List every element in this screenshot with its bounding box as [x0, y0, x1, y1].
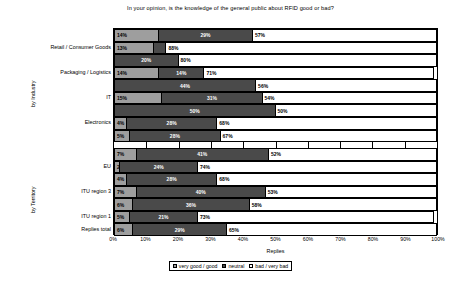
stacked-bar[interactable]: 14%14%71%	[114, 67, 437, 80]
bar-segment-bad[interactable]: 74%	[198, 161, 437, 174]
bar-value-label: 56%	[258, 83, 268, 89]
bar-segment-good[interactable]: 5%	[114, 211, 130, 224]
bar-value-label: 52%	[271, 151, 281, 157]
stacked-bar[interactable]: 6%36%58%	[114, 198, 437, 211]
bar-value-label: 57%	[255, 32, 265, 38]
stacked-bar[interactable]: 5%21%73%	[114, 211, 437, 224]
bar-segment-good[interactable]: 15%	[114, 92, 162, 105]
bar-segment-good[interactable]: 4%	[114, 173, 127, 186]
bar-row: 7%41%52%	[114, 148, 437, 161]
bar-value-label: 4%	[117, 176, 124, 182]
bar-segment-neutral[interactable]: 28%	[127, 173, 217, 186]
bar-segment-neutral[interactable]: 36%	[133, 198, 249, 211]
bar-value-label: 71%	[206, 70, 216, 76]
x-axis-tick: 100%	[431, 236, 444, 242]
category-label: Packaging / Logistics	[60, 69, 111, 75]
bar-segment-bad[interactable]: 65%	[227, 223, 437, 236]
bar-segment-bad[interactable]: 56%	[256, 79, 437, 92]
bar-value-label: 74%	[200, 164, 210, 170]
stacked-bar[interactable]: 5%28%67%	[114, 130, 437, 143]
bar-segment-neutral[interactable]: 44%	[114, 79, 256, 92]
stacked-bar[interactable]: 4%28%68%	[114, 173, 437, 186]
bar-segment-good[interactable]: 14%	[114, 67, 159, 80]
bar-value-label: 24%	[154, 164, 164, 170]
bar-row: 4%28%68%	[114, 173, 437, 186]
bar-segment-bad[interactable]: 67%	[221, 130, 437, 143]
bar-segment-bad[interactable]: 57%	[253, 29, 437, 42]
bar-row: 15%31%54%	[114, 92, 437, 105]
bar-segment-bad[interactable]: 88%	[166, 42, 437, 55]
stacked-bar[interactable]: 20%80%	[114, 54, 437, 67]
bar-segment-neutral[interactable]: 41%	[137, 148, 269, 161]
bar-segment-neutral[interactable]: 31%	[162, 92, 262, 105]
stacked-bar[interactable]: 13%88%	[114, 42, 437, 55]
legend-swatch-bad	[249, 264, 253, 268]
bar-segment-good[interactable]: 7%	[114, 148, 137, 161]
bar-segment-bad[interactable]: 73%	[198, 211, 434, 224]
bar-segment-bad[interactable]: 58%	[250, 198, 437, 211]
bar-segment-bad[interactable]: 68%	[217, 117, 437, 130]
bar-row: 14%14%71%	[114, 67, 437, 80]
stacked-bar[interactable]: 50%50%	[114, 104, 437, 117]
bar-segment-good[interactable]: 5%	[114, 130, 130, 143]
stacked-bar[interactable]: 7%41%52%	[114, 148, 437, 161]
bar-segment-neutral[interactable]: 29%	[159, 29, 253, 42]
legend-swatch-good	[173, 264, 177, 268]
bar-row: 50%50%	[114, 104, 437, 117]
bar-segment-bad[interactable]: 80%	[179, 54, 437, 67]
bar-value-label: 29%	[175, 227, 185, 233]
bar-segment-bad[interactable]: 53%	[266, 186, 437, 199]
x-axis-tick: 20%	[173, 236, 183, 242]
legend-item[interactable]: neutral	[222, 263, 244, 269]
bar-row: 14%29%57%	[114, 29, 437, 42]
legend-item[interactable]: very good / good	[173, 263, 218, 269]
bar-row: 4%28%68%	[114, 117, 437, 130]
bar-segment-bad[interactable]: 68%	[217, 173, 437, 186]
bar-segment-neutral[interactable]: 14%	[159, 67, 204, 80]
legend-label: neutral	[228, 263, 244, 269]
bar-segment-good[interactable]: 7%	[114, 186, 137, 199]
bar-segment-neutral[interactable]: 21%	[130, 211, 198, 224]
bar-segment-good[interactable]: 4%	[114, 117, 127, 130]
category-label: ITU region 3	[81, 188, 111, 194]
stacked-bar[interactable]: 2%24%74%	[114, 161, 437, 174]
bar-segment-neutral[interactable]: 40%	[137, 186, 266, 199]
stacked-bar[interactable]: 7%40%53%	[114, 186, 437, 199]
legend-swatch-neutral	[222, 264, 226, 268]
x-axis-tick: 60%	[303, 236, 313, 242]
axis-group-label-territory: by Territory	[30, 186, 36, 213]
axis-group-label-industry: by Industry	[30, 80, 36, 106]
bar-segment-neutral[interactable]: 50%	[114, 104, 276, 117]
bar-value-label: 67%	[223, 133, 233, 139]
bar-segment-neutral[interactable]: 28%	[130, 130, 220, 143]
stacked-bar[interactable]: 15%31%54%	[114, 92, 437, 105]
stacked-bar[interactable]: 44%56%	[114, 79, 437, 92]
bar-segment-good[interactable]: 6%	[114, 223, 133, 236]
bar-segment-bad[interactable]: 71%	[204, 67, 433, 80]
stacked-bar[interactable]: 14%29%57%	[114, 29, 437, 42]
bar-segment-neutral[interactable]	[154, 42, 166, 55]
x-axis-title: Replies	[113, 248, 438, 254]
bar-value-label: 13%	[117, 45, 127, 51]
bar-segment-neutral[interactable]: 20%	[114, 54, 179, 67]
bar-segment-neutral[interactable]: 28%	[127, 117, 217, 130]
legend-item[interactable]: bad / very bad	[249, 263, 288, 269]
category-label: ITU region 1	[81, 213, 111, 219]
bar-value-label: 41%	[197, 151, 207, 157]
bar-segment-good[interactable]: 13%	[114, 42, 154, 55]
bar-segment-bad[interactable]: 52%	[269, 148, 437, 161]
bar-segment-neutral[interactable]: 24%	[120, 161, 198, 174]
bar-segment-good[interactable]: 6%	[114, 198, 133, 211]
stacked-bar[interactable]: 4%28%68%	[114, 117, 437, 130]
bar-segment-neutral[interactable]: 29%	[133, 223, 227, 236]
bar-segment-bad[interactable]: 50%	[276, 104, 438, 117]
bar-segment-good[interactable]: 14%	[114, 29, 159, 42]
bar-row: 6%29%65%	[114, 223, 437, 236]
bar-value-label: 14%	[117, 70, 127, 76]
stacked-bar[interactable]: 6%29%65%	[114, 223, 437, 236]
bar-value-label: 50%	[190, 108, 200, 114]
bar-value-label: 53%	[268, 189, 278, 195]
bar-value-label: 14%	[117, 32, 127, 38]
bar-segment-bad[interactable]: 54%	[263, 92, 437, 105]
x-axis-tick: 10%	[140, 236, 150, 242]
